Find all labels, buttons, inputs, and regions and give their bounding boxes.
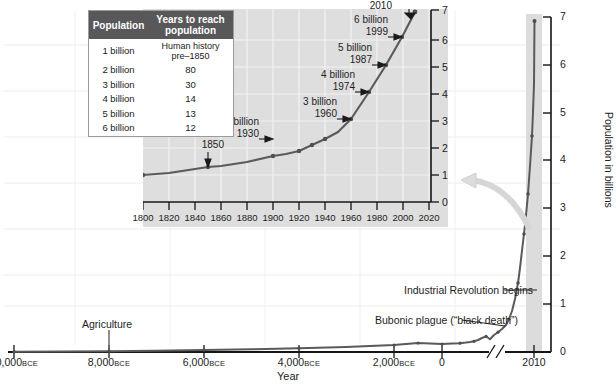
figure-root: 10,000BCE 8,000BCE 6,000BCE 4,000BCE 2,0… <box>0 0 616 392</box>
inset-xtick-1860: 1860 <box>210 212 231 223</box>
xtick-label: 8,000 <box>88 356 114 368</box>
table-cell-years-line1: Human history <box>150 41 231 51</box>
inset-ann-label: 2010 <box>352 0 392 12</box>
table-row: 6 billion 12 <box>89 121 234 136</box>
xtick-label: 2010 <box>522 356 545 368</box>
inset-xtick-2000: 2000 <box>392 212 413 223</box>
main-ytick-4: 4 <box>560 153 566 165</box>
inset-annotation-4-billion: 4 billion 1974 <box>295 69 355 92</box>
table-row: 5 billion 13 <box>89 107 234 122</box>
xtick-suffix: BCE <box>22 359 38 368</box>
table-header-row: Population Years to reach population <box>89 11 234 40</box>
table-cell-population: 6 billion <box>89 121 148 136</box>
annotation-agriculture: Agriculture <box>82 318 132 330</box>
main-ytick-2: 2 <box>560 249 566 261</box>
inset-ytick-0: 0 <box>442 196 448 208</box>
inset-ann-label: 4 billion <box>295 69 355 81</box>
inset-xtick-1800: 1800 <box>132 212 153 223</box>
inset-xtick-1960: 1960 <box>340 212 361 223</box>
xtick-label: 2,000 <box>373 356 399 368</box>
table-cell-population: 2 billion <box>89 63 148 78</box>
inset-ann-year: 1960 <box>277 108 337 120</box>
table-cell-population: 4 billion <box>89 92 148 107</box>
main-ytick-1: 1 <box>560 297 566 309</box>
inset-ytick-5: 5 <box>442 61 448 73</box>
inset-xtick-1880: 1880 <box>236 212 257 223</box>
inset-annotation-2010: 2010 <box>352 0 392 12</box>
inset-annotation-6-billion: 6 billion 1999 <box>328 14 388 37</box>
inset-xtick-1980: 1980 <box>366 212 387 223</box>
inset-ytick-4: 4 <box>442 88 448 100</box>
zoom-callout-arrow <box>461 173 530 230</box>
table-header-population: Population <box>89 11 148 40</box>
table-cell-population: 3 billion <box>89 78 148 93</box>
inset-ytick-2: 2 <box>442 142 448 154</box>
inset-annotation-5-billion: 5 billion 1987 <box>312 42 372 65</box>
main-ytick-0: 0 <box>560 345 566 357</box>
inset-xtick-1820: 1820 <box>158 212 179 223</box>
inset-xtick-2020: 2020 <box>418 212 439 223</box>
main-ytick-7: 7 <box>560 10 566 22</box>
xtick-suffix: BCE <box>399 359 415 368</box>
inset-xtick-1940: 1940 <box>314 212 335 223</box>
main-ytick-3: 3 <box>560 201 566 213</box>
inset-ann-label: 3 billion <box>277 96 337 108</box>
main-y-axis-title: Population in billions <box>603 112 615 208</box>
inset-x-ticks <box>143 202 429 210</box>
xtick-label: 6,000 <box>183 356 209 368</box>
xtick-suffix: BCE <box>209 359 225 368</box>
xtick-label: 10,000 <box>0 356 22 368</box>
table-cell-population: 1 billion <box>89 39 148 63</box>
table-row: 4 billion 14 <box>89 92 234 107</box>
inset-ytick-1: 1 <box>442 169 448 181</box>
table-header-years: Years to reach population <box>148 11 234 40</box>
annotation-industrial-revolution: Industrial Revolution begins <box>404 284 533 296</box>
inset-ann-year: 1850 <box>164 139 224 151</box>
table-cell-years: 30 <box>148 78 234 93</box>
table-cell-years-line2: pre–1850 <box>150 51 231 61</box>
table-cell-years: 13 <box>148 107 234 122</box>
table-row: 1 billion Human history pre–1850 <box>89 39 234 63</box>
xtick-suffix: BCE <box>114 359 130 368</box>
inset-annotation-3-billion: 3 billion 1960 <box>277 96 337 119</box>
inset-ytick-3: 3 <box>442 115 448 127</box>
inset-ytick-6: 6 <box>442 34 448 46</box>
inset-ann-label: 6 billion <box>328 14 388 26</box>
inset-ann-year: 1999 <box>328 26 388 38</box>
inset-ann-year: 1987 <box>312 54 372 66</box>
main-y-ticks <box>543 17 551 352</box>
inset-xtick-1840: 1840 <box>184 212 205 223</box>
inset-ann-year: 1974 <box>295 81 355 93</box>
table-cell-years: 80 <box>148 63 234 78</box>
main-ytick-6: 6 <box>560 58 566 70</box>
inset-ann-label: 5 billion <box>312 42 372 54</box>
table-row: 3 billion 30 <box>89 78 234 93</box>
inset-y-ticks <box>431 10 439 202</box>
inset-xtick-1920: 1920 <box>288 212 309 223</box>
annotation-bubonic-plague: Bubonic plague (“black death”) <box>375 314 518 326</box>
inset-xtick-1900: 1900 <box>262 212 283 223</box>
main-ytick-5: 5 <box>560 106 566 118</box>
xtick-suffix: BCE <box>304 359 320 368</box>
main-x-axis-title: Year <box>277 370 299 382</box>
table-row: 2 billion 80 <box>89 63 234 78</box>
xtick-label: 4,000 <box>278 356 304 368</box>
axis-break-icon <box>487 345 504 358</box>
inset-ytick-7: 7 <box>442 4 448 16</box>
milestone-table: Population Years to reach population 1 b… <box>88 10 234 137</box>
table-cell-years: 12 <box>148 121 234 136</box>
table-cell-years: 14 <box>148 92 234 107</box>
table-cell-years: Human history pre–1850 <box>148 39 234 63</box>
xtick-label: 0 <box>439 356 445 368</box>
table-cell-population: 5 billion <box>89 107 148 122</box>
